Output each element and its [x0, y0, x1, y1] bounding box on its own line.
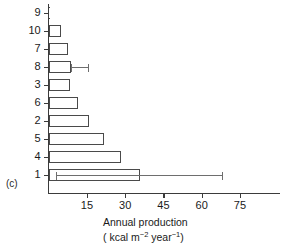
x-axis-title-line2: ( kcal m−2 year−1) [103, 230, 188, 245]
x-axis-label-75: 75 [227, 200, 253, 211]
bar-chart-figure: (c) 91078362541 1530456075 Annual produc… [0, 0, 281, 249]
x-axis-title: Annual production ( kcal m−2 year−1) [103, 215, 188, 245]
axis-unit-suffix: ) [180, 231, 184, 243]
x-tick-30 [125, 193, 126, 198]
bar-9 [49, 7, 50, 19]
axis-unit-exponent-2: −1 [172, 230, 181, 239]
x-tick-75 [240, 193, 241, 198]
error-bar-cap-8-low [71, 64, 72, 72]
error-bar-cap-1-low [56, 172, 57, 180]
x-tick-15 [87, 193, 88, 198]
y-axis-label-7: 7 [15, 43, 41, 54]
x-axis-label-45: 45 [150, 200, 176, 211]
y-axis-label-6: 6 [15, 97, 41, 108]
error-bar-line-8 [71, 67, 88, 68]
bar-10 [49, 25, 61, 37]
axis-unit-mid: year [148, 231, 171, 243]
error-bar-line-1 [56, 175, 222, 176]
y-axis-label-8: 8 [15, 61, 41, 72]
error-bar-cap-8-high [88, 64, 89, 72]
bar-6 [49, 97, 78, 109]
error-bar-cap-1-high [222, 172, 223, 180]
bar-3 [49, 79, 71, 91]
x-axis-label-60: 60 [189, 200, 215, 211]
x-axis-title-line1: Annual production [103, 215, 188, 230]
y-axis-label-4: 4 [15, 151, 41, 162]
y-axis-label-2: 2 [15, 115, 41, 126]
bar-8 [49, 61, 71, 73]
y-axis-label-10: 10 [15, 25, 41, 36]
bar-2 [49, 115, 90, 127]
y-axis-label-5: 5 [15, 133, 41, 144]
bar-5 [49, 133, 104, 145]
y-axis-label-9: 9 [15, 7, 41, 18]
x-tick-45 [163, 193, 164, 198]
x-tick-60 [202, 193, 203, 198]
axis-unit-prefix: ( kcal m [103, 231, 140, 243]
y-axis-label-3: 3 [15, 79, 41, 90]
y-axis-label-1: 1 [15, 169, 41, 180]
bar-7 [49, 43, 68, 55]
bar-4 [49, 151, 122, 163]
x-axis-label-30: 30 [112, 200, 138, 211]
x-axis-label-15: 15 [74, 200, 100, 211]
